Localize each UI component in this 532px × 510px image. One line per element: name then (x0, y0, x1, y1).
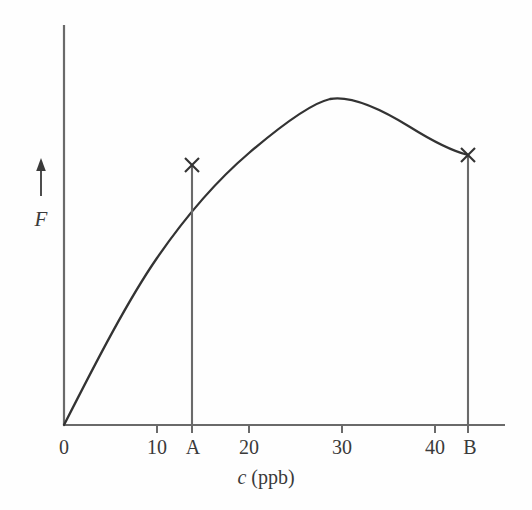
x-tick-label-B: B (463, 437, 476, 457)
x-axis-title: c (ppb) (0, 466, 532, 489)
x-axis-title-units: (ppb) (251, 466, 294, 488)
x-axis-ticks (157, 425, 468, 433)
x-tick-label-40: 40 (425, 437, 445, 457)
x-tick-label-20: 20 (239, 437, 259, 457)
data-curve (64, 98, 468, 425)
y-axis-arrow-icon (36, 158, 46, 196)
x-tick-label-0: 0 (59, 437, 69, 457)
x-tick-label-A: A (186, 437, 200, 457)
x-tick-label-30: 30 (332, 437, 352, 457)
x-axis-title-symbol: c (237, 466, 246, 488)
plot-canvas (0, 0, 532, 510)
x-tick-label-10: 10 (147, 437, 167, 457)
y-axis-title: F (28, 207, 54, 232)
chart-figure: 0 10 A 20 30 40 B F c (ppb) (0, 0, 532, 510)
